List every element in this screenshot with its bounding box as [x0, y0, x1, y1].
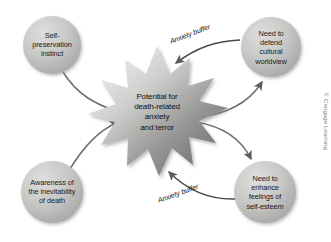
copyright-credit: © Cengage Learning	[323, 93, 330, 150]
starburst-shape	[88, 46, 228, 176]
diagram-canvas: Potential for death-related anxiety and …	[0, 0, 331, 242]
arrow-center-to-self-esteem	[196, 122, 251, 159]
diagram-svg	[0, 0, 331, 242]
arrow-buffer-top-to-center	[176, 40, 240, 63]
circle-enhance-self-esteem[interactable]	[234, 161, 296, 223]
circle-defend-cultural-worldview[interactable]	[241, 17, 301, 77]
circle-self-preservation-instinct[interactable]	[23, 16, 81, 74]
center-starburst	[88, 46, 228, 176]
circle-awareness-inevitability-death[interactable]	[21, 161, 83, 223]
